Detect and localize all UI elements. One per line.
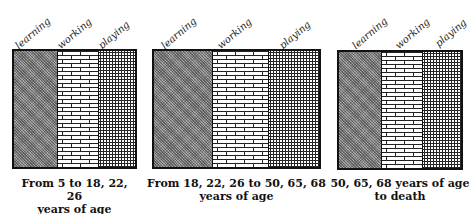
label-learning: learning bbox=[350, 15, 390, 51]
label-learning: learning bbox=[159, 15, 199, 51]
caption-line-1: 50, 65, 68 years of age bbox=[330, 177, 470, 190]
caption-line-2: years of age bbox=[12, 203, 137, 214]
caption-line-2: years of age bbox=[140, 190, 333, 203]
playing-segment bbox=[268, 51, 319, 167]
label-working: working bbox=[393, 16, 432, 51]
time-box bbox=[12, 49, 137, 169]
caption-line-1: From 18, 22, 26 to 50, 65, 68 bbox=[140, 177, 333, 190]
caption: From 5 to 18, 22, 26 years of age bbox=[12, 177, 137, 214]
time-box bbox=[337, 50, 463, 170]
caption-line-1: From 5 to 18, 22, 26 bbox=[12, 177, 137, 203]
playing-segment bbox=[422, 52, 461, 168]
working-segment bbox=[57, 51, 98, 167]
working-segment bbox=[212, 51, 268, 167]
working-segment bbox=[381, 52, 422, 168]
label-working: working bbox=[215, 16, 254, 51]
playing-segment bbox=[98, 51, 135, 167]
time-box bbox=[152, 49, 321, 169]
label-playing: playing bbox=[277, 19, 313, 51]
label-learning: learning bbox=[13, 15, 53, 51]
learning-segment bbox=[154, 51, 212, 167]
label-working: working bbox=[55, 16, 94, 51]
caption: From 18, 22, 26 to 50, 65, 68 years of a… bbox=[140, 177, 333, 203]
learning-segment bbox=[339, 52, 381, 168]
label-playing: playing bbox=[96, 19, 132, 51]
label-playing: playing bbox=[433, 17, 469, 49]
caption: 50, 65, 68 years of age to death bbox=[330, 177, 470, 203]
learning-segment bbox=[14, 51, 57, 167]
caption-line-2: to death bbox=[330, 190, 470, 203]
